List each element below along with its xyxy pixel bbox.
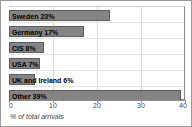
gridline-horizontal-2 — [9, 38, 184, 39]
bar-label-sweden: Sweden 23% — [12, 12, 54, 19]
x-tick-label-0: 0 — [9, 102, 13, 109]
bar-label-usa: USA 7% — [12, 60, 39, 67]
bar-row-uk-and-ireland: UK and Ireland 6% — [9, 74, 184, 85]
bar-row-cis: CIS 8% — [9, 42, 184, 53]
bar-row-germany: Germany 17% — [9, 26, 184, 37]
x-axis-title: % of total arrivals — [10, 113, 64, 120]
bar-chart-card: Sweden 23% Germany 17% CIS 8% USA 7% UK … — [0, 0, 192, 127]
bar-label-cis: CIS 8% — [12, 44, 36, 51]
bar-row-usa: USA 7% — [9, 58, 184, 69]
bar-label-other: Other 39% — [12, 92, 47, 99]
x-tick-label-40: 40 — [179, 102, 187, 109]
x-tick-label-10: 10 — [49, 102, 57, 109]
plot-area: Sweden 23% Germany 17% CIS 8% USA 7% UK … — [9, 6, 185, 100]
gridline-horizontal-4 — [9, 70, 184, 71]
x-tick-label-30: 30 — [137, 102, 145, 109]
bar-label-germany: Germany 17% — [12, 28, 58, 35]
x-tick-label-20: 20 — [93, 102, 101, 109]
bar-row-sweden: Sweden 23% — [9, 10, 184, 21]
bar-label-uk-and-ireland: UK and Ireland 6% — [12, 76, 73, 83]
gridline-horizontal-3 — [9, 54, 184, 55]
gridline-horizontal-1 — [9, 22, 184, 23]
gridline-horizontal-5 — [9, 86, 184, 87]
